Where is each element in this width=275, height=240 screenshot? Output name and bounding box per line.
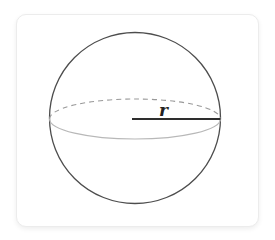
equator-back-dashed-arc bbox=[50, 99, 221, 119]
equator-front-arc bbox=[50, 119, 221, 139]
sphere-diagram: r bbox=[0, 0, 275, 240]
radius-label: r bbox=[159, 100, 169, 120]
screenshot-root: r bbox=[0, 0, 275, 240]
